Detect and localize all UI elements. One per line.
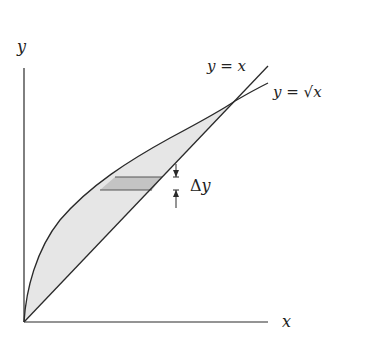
line-y-equals-x — [24, 66, 268, 322]
curve-y-equals-sqrt-x — [24, 83, 268, 322]
arrow-down-icon — [173, 170, 179, 177]
diagram-canvas: y x y = x y = √x Δy — [0, 0, 367, 353]
delta-var: y — [201, 176, 212, 195]
label-y-equals-x: y = x — [206, 57, 247, 75]
arrow-up-icon — [173, 190, 179, 197]
y-axis-label: y — [16, 37, 27, 56]
label-delta-y: Δy — [190, 176, 212, 195]
x-axis-label: x — [282, 312, 291, 331]
delta-symbol: Δ — [190, 176, 202, 195]
label-y-equals-sqrt-x: y = √x — [272, 83, 322, 101]
